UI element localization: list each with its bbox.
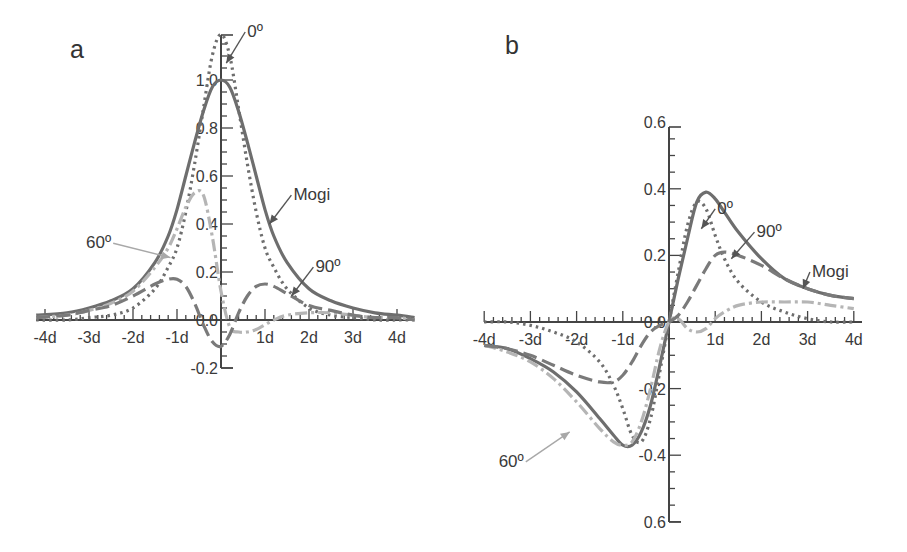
y-tick-label: 0.2: [196, 264, 218, 281]
annotation-label: 60º: [499, 452, 524, 471]
y-tick-label: 0.6: [196, 168, 218, 185]
panel-label-a: a: [70, 35, 84, 63]
annotation-label: 90º: [315, 257, 340, 276]
chart-b: -4d-3d-2d-1d1d2d3d4d0.6-0.4-0.20.00.20.4…: [473, 114, 863, 531]
y-tick-label: -0.2: [190, 360, 218, 377]
figure: a b -4d-3d-2d-1d1d2d3d4d-0.20.00.20.40.6…: [0, 0, 907, 552]
y-tick-label: 0.6: [644, 514, 666, 531]
x-tick-label: -2d: [121, 329, 144, 346]
x-tick-label: -3d: [519, 331, 542, 348]
x-tick-label: 4d: [845, 331, 863, 348]
x-tick-label: 3d: [344, 329, 362, 346]
annotation-label: 60º: [86, 233, 111, 252]
chart-a: -4d-3d-2d-1d1d2d3d4d-0.20.00.20.40.60.81…: [33, 22, 414, 377]
x-tick-label: -2d: [565, 331, 588, 348]
annotation-label: Mogi: [812, 262, 849, 281]
y-tick-label: -0.4: [638, 447, 666, 464]
x-tick-label: 2d: [300, 329, 318, 346]
annotation-label: Mogi: [293, 185, 330, 204]
x-tick-label: -1d: [165, 329, 188, 346]
panel-label-b: b: [505, 31, 519, 59]
x-tick-label: 3d: [799, 331, 817, 348]
y-tick-label: 0.4: [644, 181, 666, 198]
x-tick-label: 4d: [388, 329, 406, 346]
arrow-head-icon: [269, 214, 278, 224]
x-tick-label: 1d: [256, 329, 274, 346]
x-tick-label: 1d: [706, 331, 724, 348]
annotation-label: 90º: [756, 222, 781, 241]
x-tick-label: -4d: [33, 329, 56, 346]
arrow-head-icon: [701, 219, 709, 229]
x-tick-label: -1d: [611, 331, 634, 348]
arrow-head-icon: [560, 432, 570, 440]
annotation-label: 0º: [717, 199, 733, 218]
arrow-head-icon: [291, 286, 300, 296]
y-tick-label: 0.2: [644, 247, 666, 264]
series-0deg: [36, 34, 414, 320]
x-tick-label: 2d: [753, 331, 771, 348]
x-tick-label: -3d: [77, 329, 100, 346]
y-tick-label: 0.6: [644, 114, 666, 131]
y-tick-label: 0.4: [196, 216, 218, 233]
annotation-label: 0º: [247, 22, 263, 41]
